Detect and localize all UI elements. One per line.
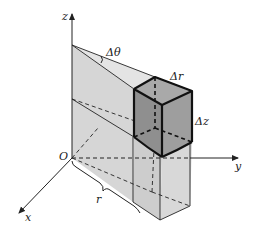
radius-label: r — [96, 193, 102, 206]
x-axis — [19, 158, 72, 213]
volume-element — [134, 77, 192, 157]
y-axis-label: y — [234, 160, 242, 173]
cylindrical-volume-element-diagram: z y x O r Δθ Δr Δz — [0, 0, 253, 233]
delta-theta-label: Δθ — [105, 46, 121, 59]
origin-label: O — [59, 150, 68, 163]
delta-r-label: Δr — [169, 70, 184, 83]
z-axis-label: z — [61, 10, 68, 23]
x-axis-label: x — [25, 211, 32, 224]
delta-z-label: Δz — [194, 115, 209, 128]
